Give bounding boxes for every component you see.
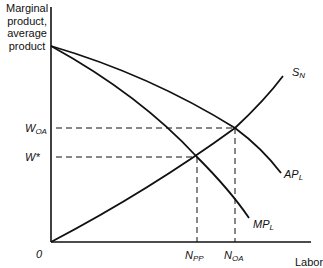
mp-l-curve: [51, 46, 249, 218]
ap-l-curve: [51, 46, 281, 173]
s-n-label: SN: [292, 66, 305, 82]
y-tick-w-star: W*: [25, 151, 40, 163]
x-axis-title: Labor: [295, 256, 323, 268]
tick-main: W: [25, 122, 35, 134]
origin-label: 0: [36, 248, 42, 260]
y-title-line: Marginal: [6, 2, 48, 15]
tick-main: N: [185, 249, 193, 261]
y-title-line: product: [6, 40, 48, 53]
y-title-line: product,: [6, 15, 48, 28]
label-sub: N: [299, 71, 305, 80]
ap-l-label: APL: [284, 168, 303, 184]
label-main: AP: [284, 168, 299, 180]
tick-sub: OA: [35, 127, 47, 136]
x-tick-n-oa: NOA: [224, 249, 244, 265]
tick-main: W*: [25, 151, 40, 163]
tick-main: N: [224, 249, 232, 261]
y-axis-title: Marginal product, average product: [6, 2, 48, 52]
label-sub: L: [270, 223, 274, 232]
mp-l-label: MPL: [253, 218, 274, 234]
x-tick-n-pp: NPP: [185, 249, 204, 265]
tick-sub: OA: [232, 254, 244, 263]
y-title-line: average: [6, 27, 48, 40]
y-tick-w-oa: WOA: [25, 122, 47, 138]
label-sub: L: [299, 173, 303, 182]
tick-sub: PP: [193, 254, 204, 263]
label-main: MP: [253, 218, 270, 230]
